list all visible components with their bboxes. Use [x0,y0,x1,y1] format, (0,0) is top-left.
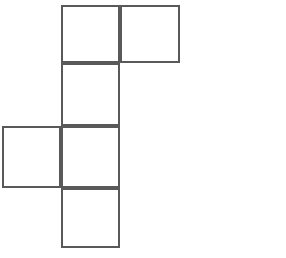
net-squares-group [3,6,179,247]
square-upper-middle [62,64,119,125]
cube-net-figure [0,0,286,258]
square-center [62,127,119,187]
square-top-right [121,6,179,62]
diagram-canvas [0,0,286,258]
square-bottom [62,189,119,247]
square-top-left [62,6,119,62]
square-center-left [3,127,60,187]
